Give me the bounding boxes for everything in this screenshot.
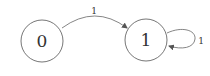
state-node-0[interactable]: 0 bbox=[21, 20, 63, 62]
edge-label: 1 bbox=[198, 36, 204, 46]
state-diagram: 0 1 1 1 bbox=[0, 0, 210, 76]
node-label: 1 bbox=[141, 30, 152, 50]
state-node-1[interactable]: 1 bbox=[125, 19, 167, 61]
node-label: 0 bbox=[37, 31, 48, 51]
transition-edge-1-self-loop: 1 bbox=[167, 29, 204, 48]
edge-label: 1 bbox=[91, 6, 97, 16]
transition-edge-0-to-1: 1 bbox=[62, 6, 127, 28]
